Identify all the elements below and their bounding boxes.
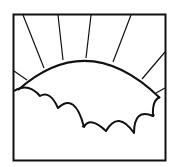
cloud-dot [151,113,154,116]
sunrise-over-clouds-icon [0,0,175,167]
frame-border [14,15,166,161]
sunrise-icon-svg [0,0,175,167]
